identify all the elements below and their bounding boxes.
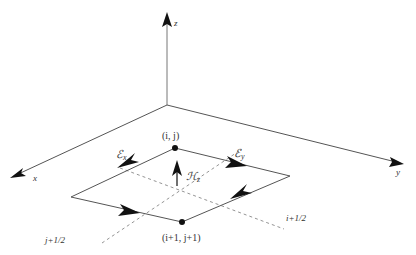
hz-arrow — [172, 160, 182, 186]
j-half-label: j+1/2 — [44, 235, 66, 245]
dashed-line-i-half — [120, 168, 284, 229]
ex-label: ℰx — [116, 148, 127, 162]
y-axis-arrow-icon — [389, 157, 404, 167]
ey-label: ℰy — [234, 147, 245, 161]
yee-cell-diagram: z x y (i, j) (i+1, j+1) ℰx ℰy ℋz i+1/2 j… — [0, 0, 416, 255]
node-bottom-label: (i+1, j+1) — [162, 232, 201, 244]
cell-square — [71, 148, 290, 222]
hz-label: ℋz — [186, 170, 201, 184]
node-bottom — [179, 219, 185, 225]
node-top-label: (i, j) — [162, 130, 179, 142]
z-axis-label: z — [173, 18, 178, 28]
y-axis-label: y — [395, 167, 400, 177]
i-half-label: i+1/2 — [286, 213, 307, 223]
x-axis-arrow-icon — [10, 168, 26, 178]
node-top — [172, 145, 178, 151]
z-axis — [162, 12, 172, 105]
y-axis — [167, 105, 404, 167]
x-axis — [10, 105, 167, 178]
left-bottom-edge-arrow-icon — [118, 204, 140, 216]
x-axis-label: x — [32, 173, 37, 183]
